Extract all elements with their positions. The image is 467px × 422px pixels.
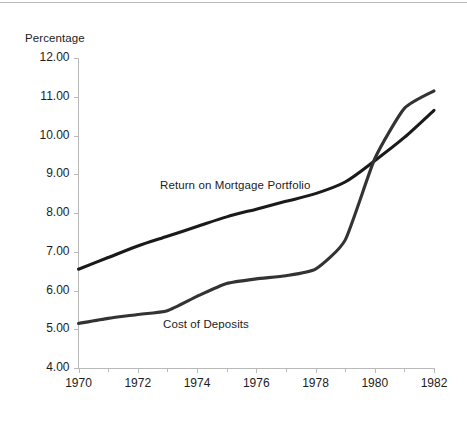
y-tick-label: 11.00 <box>24 89 70 103</box>
axes-group <box>74 58 435 373</box>
series-label-cost-of-deposits: Cost of Deposits <box>163 318 249 330</box>
series-group <box>79 91 435 324</box>
y-tick-label: 6.00 <box>24 283 70 297</box>
x-tick-label: 1974 <box>175 376 219 390</box>
y-tick-label: 8.00 <box>24 205 70 219</box>
x-tick-label: 1978 <box>294 376 338 390</box>
y-tick-label: 10.00 <box>24 128 70 142</box>
top-border-rule <box>0 2 467 3</box>
chart-figure: Percentage 12.0011.0010.009.008.007.006.… <box>0 0 467 422</box>
series-label-return-on-mortgage-portfolio: Return on Mortgage Portfolio <box>160 179 310 191</box>
x-tick-label: 1980 <box>353 376 397 390</box>
x-tick-label: 1970 <box>57 376 101 390</box>
x-tick-label: 1982 <box>412 376 456 390</box>
y-tick-label: 9.00 <box>24 166 70 180</box>
x-tick-label: 1976 <box>234 376 278 390</box>
y-tick-label: 4.00 <box>24 360 70 374</box>
series-line-cost-of-deposits <box>79 91 435 324</box>
plot-canvas <box>0 0 467 422</box>
y-axis-title: Percentage <box>25 32 85 44</box>
y-tick-label: 5.00 <box>24 321 70 335</box>
y-tick-label: 12.00 <box>24 50 70 64</box>
y-tick-label: 7.00 <box>24 244 70 258</box>
x-tick-label: 1972 <box>116 376 160 390</box>
